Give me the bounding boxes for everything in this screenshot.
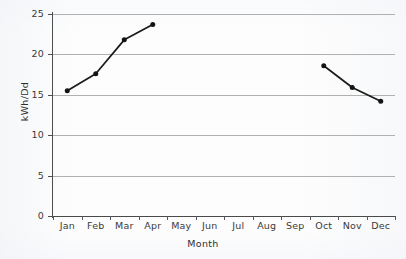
data-point-nov xyxy=(350,85,355,90)
data-point-apr xyxy=(150,22,155,27)
data-point-dec xyxy=(378,99,383,104)
series-line-segment-2 xyxy=(324,66,381,102)
data-point-oct xyxy=(321,63,326,68)
x-axis-title: Month xyxy=(0,238,406,249)
data-point-mar xyxy=(122,37,127,42)
series-line-segment-1 xyxy=(67,25,153,91)
chart-screenshot: kWh/Dd 0510152025 JanFebMarAprMayJunJulA… xyxy=(0,0,406,259)
data-point-jan xyxy=(65,88,70,93)
data-series-layer xyxy=(0,0,406,259)
data-point-feb xyxy=(93,71,98,76)
